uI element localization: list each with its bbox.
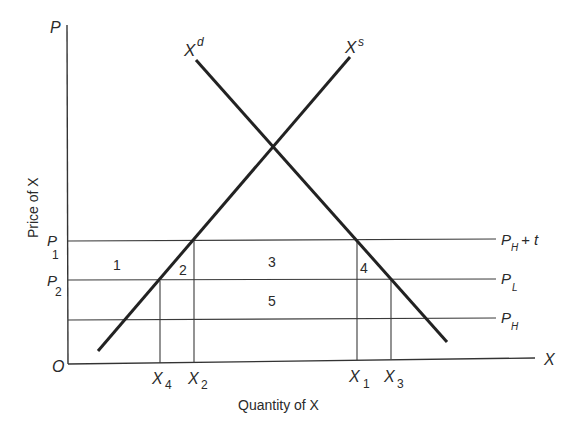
- area-label-3: 3: [268, 254, 276, 270]
- diagram-canvas: P X O Price of X Quantity of X X d X s P…: [0, 0, 580, 431]
- svg-text:X: X: [187, 370, 200, 387]
- x-axis-letter: X: [543, 351, 556, 368]
- y-axis-title: Price of X: [25, 177, 41, 238]
- area-label-5: 5: [268, 293, 276, 309]
- svg-text:s: s: [358, 35, 364, 49]
- svg-text:1: 1: [52, 248, 59, 262]
- demand-curve: [196, 60, 447, 342]
- price-line-ph: [68, 318, 496, 320]
- svg-text:P: P: [501, 231, 511, 248]
- supply-curve: [98, 57, 350, 351]
- svg-text:L: L: [512, 282, 518, 293]
- svg-text:1: 1: [363, 377, 370, 391]
- svg-text:X: X: [151, 370, 164, 387]
- price-line-ph-plus-t: [68, 239, 496, 241]
- svg-text:H: H: [511, 242, 519, 253]
- svg-text:2: 2: [55, 285, 62, 299]
- y-axis: [67, 25, 68, 364]
- svg-text:X: X: [348, 368, 361, 385]
- x-axis-title: Quantity of X: [238, 397, 320, 413]
- price-line-pl: [68, 279, 496, 280]
- ph-plus-t-label: P H + t: [501, 231, 539, 253]
- x2-label: X 2: [187, 370, 208, 392]
- svg-text:3: 3: [397, 377, 404, 391]
- svg-text:4: 4: [165, 378, 172, 392]
- pl-label: P L: [501, 270, 518, 293]
- svg-text:d: d: [197, 35, 204, 49]
- area-label-4: 4: [360, 260, 368, 276]
- svg-text:X: X: [183, 41, 196, 60]
- x4-label: X 4: [151, 370, 172, 392]
- svg-text:P: P: [47, 232, 57, 249]
- area-label-1: 1: [113, 257, 121, 273]
- p1-label: P 1: [47, 232, 59, 262]
- svg-text:+ t: + t: [521, 231, 539, 248]
- p2-label: P 2: [47, 272, 62, 299]
- svg-text:2: 2: [201, 378, 208, 392]
- svg-text:H: H: [511, 321, 519, 332]
- supply-curve-label: X s: [344, 35, 364, 57]
- x-axis: [68, 358, 535, 364]
- origin-label: O: [52, 358, 64, 375]
- y-axis-letter: P: [50, 19, 61, 36]
- x3-label: X 3: [383, 368, 404, 391]
- svg-text:X: X: [383, 368, 396, 385]
- x1-label: X 1: [348, 368, 370, 391]
- area-label-2: 2: [179, 262, 187, 278]
- svg-text:X: X: [344, 38, 357, 57]
- demand-curve-label: X d: [183, 35, 204, 60]
- svg-text:P: P: [501, 270, 511, 287]
- ph-label: P H: [501, 309, 519, 332]
- svg-text:P: P: [501, 309, 511, 326]
